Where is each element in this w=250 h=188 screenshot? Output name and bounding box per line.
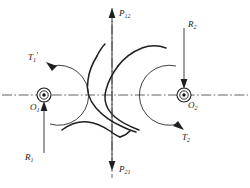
torque-left-arrowhead [46,62,57,71]
label-force-bottom: P21 [118,164,131,175]
label-reaction-left: R1 [24,152,34,163]
reaction-arrow-left [41,101,48,153]
diagram-canvas: O1 O2 P12 P21 [0,0,250,188]
force-top-arrowhead [109,8,116,18]
label-torque-right: T2 [182,132,190,143]
label-force-top: P12 [118,8,131,19]
bearing-left-axis-dot [42,93,45,96]
torque-arc-left [46,62,89,125]
label-reaction-right: R2 [187,19,197,30]
force-bottom-arrowhead [109,161,116,171]
force-arrow-bottom [109,95,116,171]
profile-curve-lower-connector [120,131,130,137]
profile-curve-upper-right [118,46,166,66]
free-body-diagram: O1 O2 P12 P21 [0,0,250,188]
force-arrow-top [109,8,116,95]
label-center-right: O2 [188,100,198,111]
meshing-profile-curves [62,44,166,137]
label-center-left: O1 [30,102,40,113]
bearing-left [37,88,51,102]
reaction-arrow-right [181,28,188,89]
reaction-left-arrowhead [41,101,48,111]
profile-curve-left-top-stub [97,44,105,56]
torque-right-arrowhead [173,121,184,130]
bearing-right-axis-dot [182,93,185,96]
label-torque-left: T1′ [28,51,38,63]
profile-curve-lower-left [62,122,120,137]
reaction-right-arrowhead [181,79,188,89]
